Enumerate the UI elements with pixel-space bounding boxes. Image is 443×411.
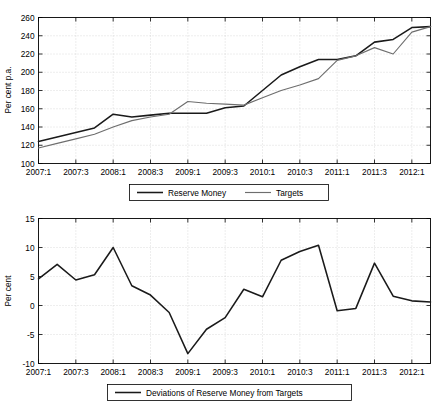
x-tick-label: 2010:3 <box>287 367 313 377</box>
y-tick-label: 220 <box>21 49 35 59</box>
y-tick-label: 260 <box>21 13 35 23</box>
charts-svg: 100120140160180200220240260 2007:12007:3… <box>0 0 443 411</box>
top-chart-gridlines <box>39 18 431 164</box>
series-line-reserve-money <box>39 27 431 142</box>
x-tick-label: 2010:1 <box>250 367 276 377</box>
x-tick-label: 2007:3 <box>63 167 89 177</box>
top-chart-y-axis-title: Per cent p.a. <box>3 66 13 113</box>
y-tick-label: 120 <box>21 140 35 150</box>
bottom-chart: -10-5051015 2007:12007:32008:12008:32009… <box>3 214 431 377</box>
x-tick-label: 2012:1 <box>399 167 425 177</box>
x-tick-label: 2007:1 <box>26 167 52 177</box>
bottom-chart-y-tick-labels: -10-5051015 <box>23 214 35 369</box>
bottom-chart-y-axis-title: Per cent <box>3 275 13 307</box>
y-tick-label: 200 <box>21 67 35 77</box>
x-tick-label: 2008:3 <box>138 167 164 177</box>
bottom-chart-tickmarks <box>39 219 431 364</box>
x-tick-label: 2009:1 <box>175 167 201 177</box>
y-tick-label: 140 <box>21 122 35 132</box>
bottom-legend-label-deviations: Deviations of Reserve Money from Targets <box>146 388 303 398</box>
bottom-chart-x-tick-labels: 2007:12007:32008:12008:32009:12009:32010… <box>26 367 425 377</box>
x-tick-label: 2008:3 <box>138 367 164 377</box>
x-tick-label: 2008:1 <box>100 167 126 177</box>
top-chart-x-tick-labels: 2007:12007:32008:12008:32009:12009:32010… <box>26 167 425 177</box>
x-tick-label: 2009:1 <box>175 367 201 377</box>
x-tick-label: 2011:3 <box>362 367 387 377</box>
y-tick-label: -5 <box>27 330 35 340</box>
x-tick-label: 2010:1 <box>250 167 276 177</box>
y-tick-label: 5 <box>30 272 35 282</box>
y-tick-label: 180 <box>21 86 35 96</box>
bottom-chart-frame <box>39 219 431 364</box>
top-chart: 100120140160180200220240260 2007:12007:3… <box>3 13 431 177</box>
x-tick-label: 2011:1 <box>325 167 350 177</box>
x-tick-label: 2007:3 <box>63 367 89 377</box>
figure-container: 100120140160180200220240260 2007:12007:3… <box>0 0 443 411</box>
bottom-chart-legend: Deviations of Reserve Money from Targets <box>108 385 352 401</box>
bottom-chart-gridlines <box>39 219 431 364</box>
y-tick-label: 160 <box>21 104 35 114</box>
top-legend-label-reserve-money: Reserve Money <box>168 188 227 198</box>
x-tick-label: 2007:1 <box>26 367 52 377</box>
x-tick-label: 2011:1 <box>325 367 350 377</box>
x-tick-label: 2009:3 <box>212 167 238 177</box>
x-tick-label: 2011:3 <box>362 167 387 177</box>
y-tick-label: 10 <box>25 243 35 253</box>
y-tick-label: 15 <box>25 214 35 224</box>
series-line-deviations <box>39 245 431 353</box>
x-tick-label: 2010:3 <box>287 167 313 177</box>
top-chart-legend: Reserve Money Targets <box>130 185 329 201</box>
y-tick-label: 0 <box>30 301 35 311</box>
top-chart-y-tick-labels: 100120140160180200220240260 <box>21 13 35 169</box>
x-tick-label: 2012:1 <box>399 367 425 377</box>
x-tick-label: 2008:1 <box>100 367 126 377</box>
y-tick-label: 240 <box>21 31 35 41</box>
top-legend-label-targets: Targets <box>276 188 303 198</box>
x-tick-label: 2009:3 <box>212 367 238 377</box>
